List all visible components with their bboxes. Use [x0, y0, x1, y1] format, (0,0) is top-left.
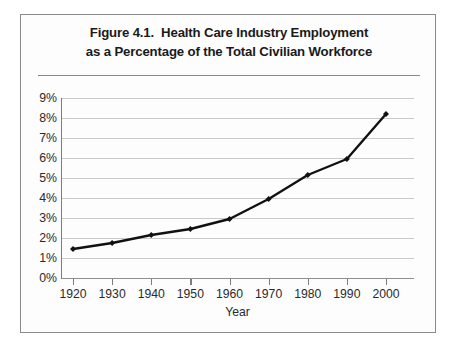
x-axis-ticks	[61, 279, 414, 286]
y-tick-label-2%: 2%	[23, 231, 57, 245]
y-tick-label-3%: 3%	[23, 211, 57, 225]
x-tick-label-2000: 2000	[359, 287, 413, 301]
x-tick-1970	[269, 279, 270, 285]
data-point-1950	[187, 226, 193, 232]
figure-title: Figure 4.1. Health Care Industry Employm…	[21, 24, 437, 61]
x-tick-1980	[308, 279, 309, 285]
y-axis-tick-labels: 0%1%2%3%4%5%6%7%8%9%	[21, 98, 57, 278]
x-tick-1920	[73, 279, 74, 285]
x-tick-1990	[347, 279, 348, 285]
y-tick-label-7%: 7%	[23, 131, 57, 145]
data-point-1920	[70, 246, 76, 252]
y-tick-label-4%: 4%	[23, 191, 57, 205]
x-tick-1940	[151, 279, 152, 285]
y-tick-label-0%: 0%	[23, 271, 57, 285]
y-tick-label-9%: 9%	[23, 91, 57, 105]
data-point-1930	[109, 240, 115, 246]
figure-frame: Figure 4.1. Health Care Industry Employm…	[20, 14, 436, 333]
series-polyline	[73, 114, 386, 249]
x-tick-1930	[112, 279, 113, 285]
x-tick-1960	[230, 279, 231, 285]
x-axis-tick-labels: 192019301940195019601970198019902000	[61, 287, 414, 305]
x-tick-1950	[190, 279, 191, 285]
x-tick-2000	[386, 279, 387, 285]
y-tick-label-8%: 8%	[23, 111, 57, 125]
title-separator-rule	[38, 75, 420, 76]
data-point-1940	[148, 232, 154, 238]
figure-title-line-2: as a Percentage of the Total Civilian Wo…	[21, 43, 437, 62]
x-axis-title: Year	[61, 305, 414, 319]
figure-title-line-1: Figure 4.1. Health Care Industry Employm…	[21, 24, 437, 43]
y-tick-label-1%: 1%	[23, 251, 57, 265]
y-tick-label-6%: 6%	[23, 151, 57, 165]
y-tick-label-5%: 5%	[23, 171, 57, 185]
data-series-line	[61, 98, 414, 278]
